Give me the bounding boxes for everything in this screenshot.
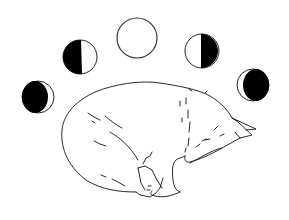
moon-icon-half-right-dark	[185, 34, 219, 68]
sleeping-cat-illustration	[0, 0, 289, 220]
moon-icon-waxing	[237, 69, 269, 101]
moon-icon-full	[117, 18, 157, 58]
moon-phases	[22, 18, 269, 113]
illustration-canvas	[0, 0, 289, 220]
cat-line-art	[62, 82, 256, 197]
moon-icon-waning	[22, 81, 54, 113]
moon-icon-half-left-dark	[63, 40, 97, 74]
